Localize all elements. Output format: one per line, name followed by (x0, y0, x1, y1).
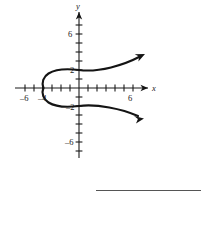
y-tick-label-pos2: 2 (70, 65, 74, 75)
parabola-lower-branch (43, 87, 138, 116)
x-axis (15, 85, 148, 92)
y-tick-label-neg2: –2 (65, 102, 75, 112)
x-tick-label-pos6: 6 (128, 93, 132, 103)
figure-container: x y –6 –4 6 6 2 –2 –6 (0, 0, 201, 226)
parabola-curve (43, 54, 145, 124)
x-tick-label-neg4: –4 (37, 93, 47, 103)
x-tick-label-neg6: –6 (19, 93, 29, 103)
parabola-upper-branch (43, 57, 140, 89)
y-axis (76, 12, 83, 158)
answer-blank-line[interactable] (96, 190, 201, 191)
coordinate-plane-graph: x y –6 –4 6 6 2 –2 –6 (0, 0, 201, 226)
y-axis-label: y (75, 1, 80, 11)
y-tick-label-neg6: –6 (64, 137, 74, 147)
parabola-lower-arrow-icon (134, 116, 144, 124)
y-tick-label-pos6: 6 (68, 29, 72, 39)
x-axis-label: x (151, 83, 156, 93)
